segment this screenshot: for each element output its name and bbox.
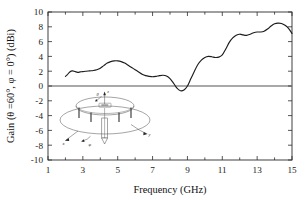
x-tick-label: 15 — [287, 165, 297, 175]
x-axis-title: Frequency (GHz) — [134, 184, 207, 196]
x-tick-label: 3 — [81, 165, 86, 175]
y-axis-label: y — [147, 132, 151, 137]
x-tick-label: 5 — [115, 165, 120, 175]
phi-axis-label: φ — [89, 142, 92, 147]
z-axis-label: z — [106, 89, 109, 94]
y-tick-label: 10 — [34, 7, 44, 17]
x-tick-label: 1 — [46, 165, 51, 175]
y-tick-label: 2 — [38, 67, 43, 77]
ground-plane-ellipse — [60, 106, 150, 134]
y-tick-label: -8 — [35, 141, 43, 151]
y-tick-label: 8 — [38, 22, 43, 32]
x-tick-label: 13 — [253, 165, 263, 175]
coax-feed-tip — [102, 138, 108, 144]
y-axis-line — [131, 125, 146, 134]
x-axis-tick-labels: 13579111315 — [46, 165, 297, 175]
theta-arrowhead — [95, 99, 98, 102]
y-tick-label: -4 — [35, 111, 43, 121]
z-axis-arrowhead — [103, 92, 106, 96]
y-tick-label: 4 — [38, 52, 43, 62]
y-tick-label: -10 — [31, 155, 44, 165]
x-axis-inset-label: x — [62, 141, 65, 146]
y-axis-tick-labels: -10-8-6-4-20246810 — [31, 7, 44, 165]
x-tick-label: 9 — [185, 165, 190, 175]
y-tick-label: -2 — [35, 96, 43, 106]
antenna-geometry-inset: z θ y x φ — [60, 89, 151, 146]
x-axis-arrowhead — [65, 138, 69, 141]
x-tick-label: 7 — [150, 165, 155, 175]
inner-slot-core — [101, 104, 108, 106]
x-axis-line — [66, 131, 78, 140]
figure-container: -10-8-6-4-20246810 13579111315 Frequency… — [0, 0, 306, 200]
gain-vs-frequency-chart: -10-8-6-4-20246810 13579111315 Frequency… — [0, 0, 306, 200]
y-axis-arrowhead — [143, 132, 147, 135]
y-tick-label: 0 — [38, 81, 43, 91]
y-tick-label: 6 — [38, 37, 43, 47]
y-tick-label: -6 — [35, 126, 43, 136]
y-axis-title: Gain (θ =60°, φ = 0°) (dBi) — [5, 29, 17, 143]
phi-arrowhead — [81, 139, 85, 142]
x-tick-label: 11 — [218, 165, 227, 175]
gain-curve — [65, 23, 292, 91]
theta-axis-label: θ — [97, 92, 100, 97]
